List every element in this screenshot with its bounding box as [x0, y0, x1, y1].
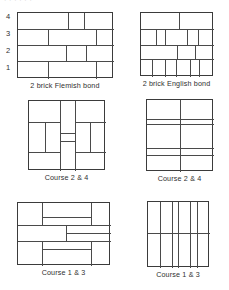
- figure-course-2-4-right: Course 2 & 4: [146, 99, 213, 171]
- mortar-joint: [42, 241, 43, 266]
- mortar-joint: [91, 203, 92, 225]
- course-number-1: 1: [2, 63, 14, 72]
- mortar-bed-joint: [141, 29, 214, 30]
- mortar-bed-joint: [18, 61, 114, 62]
- flemish-bond-plate: [17, 12, 113, 78]
- mortar-joint: [42, 217, 91, 218]
- mortar-joint: [60, 133, 75, 134]
- course-1-3-left-plate: [17, 202, 110, 265]
- mortar-joint: [197, 202, 198, 268]
- brick-bond-figure-grid: 4 3 2 1 2 brick Flemish bond: [0, 0, 229, 290]
- mortar-joint: [60, 141, 75, 142]
- mortar-joint: [42, 203, 43, 225]
- mortar-joint: [29, 152, 60, 153]
- mortar-perpend: [187, 29, 188, 45]
- course-1-3-right-plate: [147, 201, 209, 267]
- mortar-joint: [160, 202, 161, 268]
- mortar-bed-joint: [18, 29, 114, 30]
- mortar-joint: [178, 202, 179, 268]
- figure-caption: 2 brick Flemish bond: [17, 81, 113, 90]
- mortar-perpend: [165, 59, 166, 77]
- mortar-joint: [147, 148, 214, 149]
- mortar-joint: [75, 101, 76, 171]
- course-number-gutter: 4 3 2 1: [2, 12, 14, 78]
- mortar-perpend: [176, 59, 177, 77]
- mortar-perpend: [86, 45, 87, 61]
- mortar-joint: [66, 233, 111, 234]
- mortar-perpend: [165, 29, 166, 45]
- mortar-perpend: [68, 13, 69, 29]
- mortar-joint: [147, 119, 214, 120]
- course-number-2: 2: [2, 46, 14, 55]
- figure-caption: Course 2 & 4: [146, 174, 213, 183]
- course-2-4-left-plate: [28, 100, 105, 170]
- mortar-joint: [190, 202, 191, 268]
- mortar-perpend: [195, 45, 196, 59]
- mortar-joint: [148, 233, 210, 234]
- mortar-joint: [147, 124, 214, 125]
- figure-course-2-4-left: Course 2 & 4: [28, 100, 105, 170]
- mortar-perpend: [179, 13, 180, 29]
- mortar-perpend: [84, 13, 85, 29]
- mortar-perpend: [199, 59, 200, 77]
- mortar-perpend: [156, 29, 157, 45]
- figure-flemish-bond: 2 brick Flemish bond: [17, 12, 113, 78]
- mortar-perpend: [152, 59, 153, 77]
- figure-caption: Course 1 & 3: [17, 268, 110, 277]
- mortar-joint: [91, 241, 92, 266]
- course-number-3: 3: [2, 29, 14, 38]
- mortar-joint: [42, 249, 91, 250]
- mortar-joint: [18, 241, 111, 242]
- mortar-perpend: [198, 29, 199, 45]
- figure-caption: Course 1 & 3: [147, 270, 209, 279]
- figure-caption: Course 2 & 4: [28, 173, 105, 182]
- figure-course-1-3-right: Course 1 & 3: [147, 201, 209, 267]
- mortar-joint: [147, 155, 214, 156]
- mortar-perpend: [177, 45, 178, 59]
- course-2-4-right-plate: [146, 99, 213, 171]
- mortar-joint: [60, 101, 61, 171]
- mortar-joint: [18, 225, 111, 226]
- mortar-joint: [75, 152, 106, 153]
- english-bond-plate: [140, 12, 213, 76]
- figure-caption: 2 brick English bond: [140, 79, 213, 88]
- mortar-joint: [90, 122, 91, 152]
- mortar-joint: [172, 202, 173, 268]
- mortar-perpend: [190, 59, 191, 77]
- mortar-perpend: [96, 61, 97, 79]
- figure-course-1-3-left: Course 1 & 3: [17, 202, 110, 265]
- mortar-perpend: [48, 29, 49, 45]
- mortar-joint: [45, 122, 46, 152]
- course-number-4: 4: [2, 12, 14, 21]
- mortar-perpend: [66, 45, 67, 61]
- figure-english-bond: 2 brick English bond: [140, 12, 213, 76]
- mortar-perpend: [96, 29, 97, 45]
- mortar-joint: [180, 100, 181, 172]
- mortar-perpend: [48, 61, 49, 79]
